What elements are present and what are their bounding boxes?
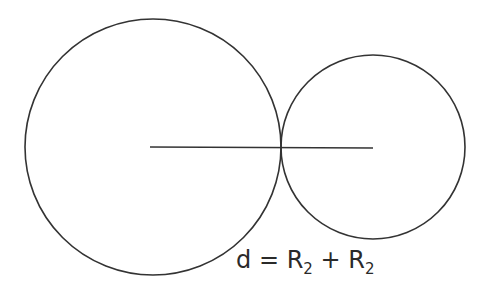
formula-lhs: d — [236, 246, 251, 274]
formula-term-1: R — [287, 246, 304, 274]
formula-subscript-2: 2 — [365, 260, 375, 278]
formula-plus: + — [321, 246, 341, 274]
distance-formula: d = R2 + R2 — [236, 248, 374, 272]
formula-subscript-1: 2 — [303, 260, 313, 278]
formula-term-2: R — [348, 246, 365, 274]
formula-equals: = — [259, 246, 279, 274]
center-distance-line — [150, 147, 373, 148]
